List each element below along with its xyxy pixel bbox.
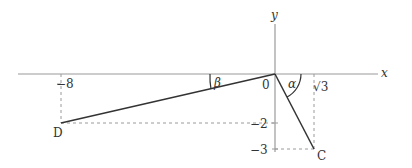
angle-beta-label: β bbox=[213, 76, 221, 90]
segment-od bbox=[61, 74, 275, 123]
tick-label-x-neg8: −8 bbox=[56, 77, 74, 91]
coordinate-diagram: x y 0 −8 √3 −2 −3 β α D C bbox=[0, 0, 412, 168]
point-c-label: C bbox=[317, 149, 326, 163]
y-axis-label: y bbox=[270, 8, 278, 22]
tick-label-x-sqrt3: √3 bbox=[313, 80, 328, 94]
origin-label: 0 bbox=[262, 78, 270, 92]
angle-alpha-label: α bbox=[288, 77, 296, 91]
x-axis-label: x bbox=[381, 66, 388, 80]
point-d-label: D bbox=[53, 126, 63, 140]
tick-label-y-neg3: −3 bbox=[250, 143, 268, 157]
angle-beta-arc bbox=[210, 74, 211, 89]
tick-label-y-neg2: −2 bbox=[250, 117, 268, 131]
